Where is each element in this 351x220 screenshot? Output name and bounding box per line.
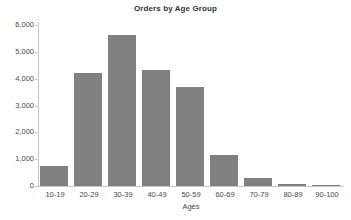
- y-axis-tick-label: 6,000: [0, 21, 34, 29]
- y-axis-tick-label: 5,000: [0, 48, 34, 56]
- bar-slot: [72, 20, 106, 186]
- bar-slot: [106, 20, 140, 186]
- bar: [142, 70, 170, 186]
- y-axis-tick-label: 1,000: [0, 155, 34, 163]
- bar: [40, 166, 68, 186]
- y-axis-tick-label: 3,000: [0, 102, 34, 110]
- bar-slot: [174, 20, 208, 186]
- bar-slot: [140, 20, 174, 186]
- y-axis-tick-label: 4,000: [0, 75, 34, 83]
- bar-slot: [242, 20, 276, 186]
- x-axis-line: [38, 186, 344, 187]
- bar: [312, 185, 340, 186]
- bar-slot: [38, 20, 72, 186]
- y-axis-tick-label: 2,000: [0, 128, 34, 136]
- bar: [176, 87, 204, 186]
- bar: [108, 35, 136, 186]
- x-axis-title: Ages: [38, 202, 344, 211]
- x-axis-tick-label: 90-100: [307, 190, 347, 199]
- chart-title: Orders by Age Group: [0, 4, 351, 13]
- bar: [210, 155, 238, 186]
- bar-slot: [276, 20, 310, 186]
- bar-series: [38, 20, 344, 186]
- bar-chart: Orders by Age Group 01,0002,0003,0004,00…: [0, 0, 351, 220]
- bar: [74, 73, 102, 186]
- bar: [244, 178, 272, 186]
- bar: [278, 184, 306, 186]
- y-axis-tick-mark: [35, 186, 38, 187]
- y-axis-tick-label: 0: [0, 182, 34, 190]
- bar-slot: [208, 20, 242, 186]
- bar-slot: [310, 20, 344, 186]
